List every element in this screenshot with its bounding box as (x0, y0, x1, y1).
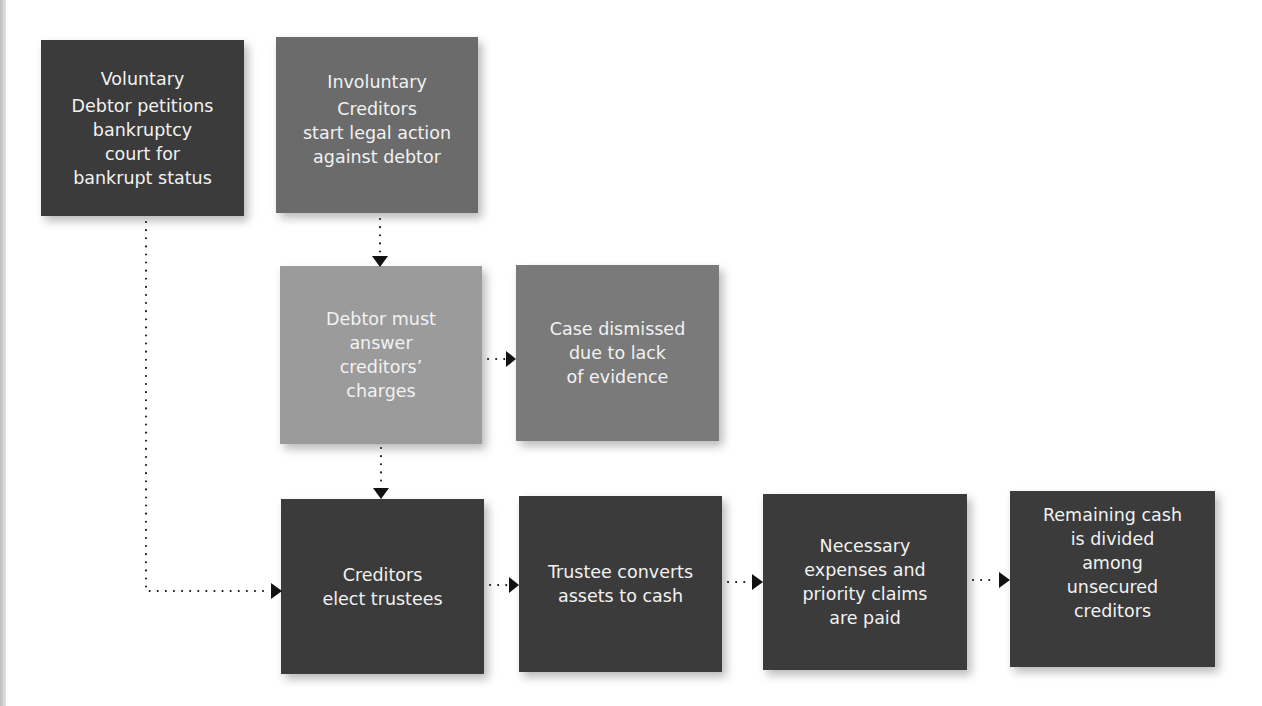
arrowhead-down-icon (373, 488, 389, 499)
arrowhead-right-icon (509, 577, 519, 593)
node-debtor-must-answer: Debtor must answer creditors’ charges (280, 266, 482, 444)
node-debtor-must-answer-body: Debtor must answer creditors’ charges (326, 307, 436, 403)
arrowhead-right-icon (999, 572, 1010, 588)
left-edge-stripe (0, 0, 6, 706)
node-creditors-elect-body: Creditors elect trustees (322, 563, 442, 611)
node-creditors-elect: Creditors elect trustees (281, 499, 484, 674)
node-case-dismissed-body: Case dismissed due to lack of evidence (550, 317, 686, 389)
node-trustee-converts: Trustee converts assets to cash (519, 496, 722, 672)
node-involuntary-title: Involuntary (327, 70, 427, 94)
node-remaining-cash: Remaining cash is divided among unsecure… (1010, 491, 1215, 667)
node-remaining-cash-body: Remaining cash is divided among unsecure… (1043, 503, 1182, 623)
node-voluntary: Voluntary Debtor petitions bankruptcy co… (41, 40, 244, 216)
node-voluntary-body: Debtor petitions bankruptcy court for ba… (72, 94, 214, 190)
node-involuntary: Involuntary Creditors start legal action… (276, 37, 478, 213)
arrowhead-right-icon (506, 351, 516, 367)
node-voluntary-title: Voluntary (101, 67, 185, 91)
node-expenses-paid: Necessary expenses and priority claims a… (763, 494, 967, 670)
arrowhead-right-icon (752, 574, 763, 590)
node-trustee-converts-body: Trustee converts assets to cash (548, 560, 693, 608)
node-expenses-paid-body: Necessary expenses and priority claims a… (803, 534, 928, 630)
node-involuntary-body: Creditors start legal action against deb… (303, 97, 451, 169)
node-case-dismissed: Case dismissed due to lack of evidence (516, 265, 719, 441)
